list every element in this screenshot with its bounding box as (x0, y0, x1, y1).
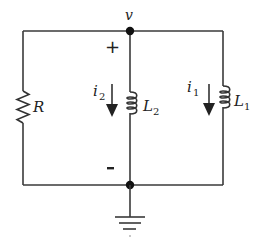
resistor-symbol (17, 91, 29, 123)
current-i1-label: i (187, 78, 192, 96)
plus-sign: + (105, 36, 120, 57)
node-v-label: v (125, 7, 133, 23)
resistor-branch: R (17, 31, 44, 185)
ground-icon (115, 217, 145, 237)
ground (115, 181, 145, 237)
inductor-l1-label: L (233, 92, 244, 110)
node-dot-top (126, 27, 134, 35)
inductor-l1-branch: L 1 (220, 31, 250, 185)
node-v: v (125, 7, 134, 35)
current-i2-label: i (93, 82, 98, 100)
inductor-l1-subscript: 1 (244, 101, 250, 112)
inductor-l2-subscript: 2 (153, 106, 159, 117)
minus-sign (107, 167, 114, 169)
current-i1-subscript: 1 (193, 87, 199, 98)
circuit-diagram: R L 2 L 1 i 2 i 1 v + (0, 0, 260, 248)
inductor-l2-label: L (142, 97, 153, 115)
arrowhead-icon (203, 103, 215, 116)
resistor-label: R (32, 98, 44, 116)
current-i1: i 1 (187, 78, 215, 116)
inductor-l2-branch: L 2 (127, 31, 159, 185)
current-i2: i 2 (93, 82, 118, 117)
inductor-l2-symbol (127, 92, 137, 114)
arrowhead-icon (106, 104, 118, 117)
current-i2-subscript: 2 (99, 91, 105, 102)
inductor-l1-symbol (220, 86, 230, 108)
